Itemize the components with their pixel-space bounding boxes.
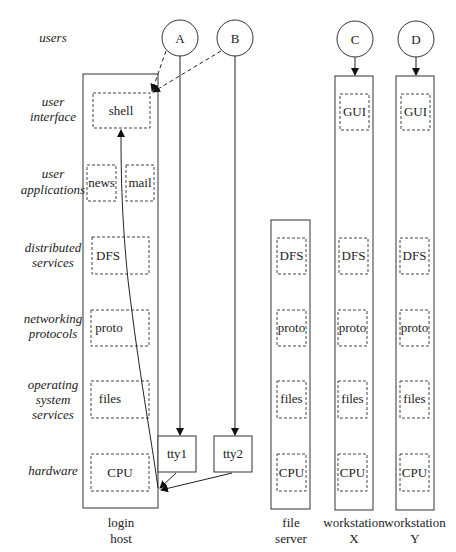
svg-text:D: D [411, 32, 420, 47]
svg-text:proto: proto [95, 320, 122, 335]
file-server: DFS proto files CPU [271, 220, 310, 509]
svg-text:GUI: GUI [404, 104, 427, 119]
svg-text:DFS: DFS [342, 248, 366, 263]
login-host-caption-1: login [108, 515, 135, 530]
workstation-y: GUI DFS proto files CPU [396, 76, 434, 510]
workstation-y-caption-1: workstation [384, 515, 446, 530]
svg-text:DFS: DFS [403, 248, 427, 263]
user-c: C [337, 21, 373, 57]
svg-text:mail: mail [128, 175, 151, 190]
svg-text:tty2: tty2 [223, 446, 243, 461]
svg-text:shell: shell [109, 103, 134, 118]
tty2-to-login-host-arrow [161, 473, 232, 490]
svg-text:files: files [403, 391, 425, 406]
tty1-to-login-host-arrow [160, 473, 176, 488]
svg-text:news: news [88, 175, 115, 190]
svg-text:DFS: DFS [280, 248, 304, 263]
workstation-y-caption-2: Y [410, 531, 420, 546]
svg-text:CPU: CPU [279, 465, 305, 480]
svg-text:CPU: CPU [107, 465, 133, 480]
layer-distributed-services-2: services [32, 255, 74, 270]
connections [121, 51, 416, 490]
login-host: shell news mail DFS proto files CPU [83, 74, 158, 508]
svg-text:files: files [341, 391, 363, 406]
layer-labels: users user interface user applications d… [21, 30, 85, 478]
svg-text:proto: proto [339, 320, 366, 335]
svg-text:files: files [99, 391, 121, 406]
distributed-system-diagram: users user interface user applications d… [0, 0, 456, 552]
layer-networking-protocols-1: networking [24, 311, 83, 326]
svg-text:C: C [351, 32, 360, 47]
layer-user-interface-1: user [42, 94, 65, 109]
svg-text:proto: proto [278, 320, 305, 335]
file-server-caption-2: server [275, 531, 307, 546]
layer-os-services-1: operating [28, 377, 79, 392]
layer-os-services-2: system [36, 392, 71, 407]
tty2-terminal: tty2 [214, 436, 252, 472]
layer-user-interface-2: interface [30, 109, 76, 124]
svg-text:B: B [231, 31, 240, 46]
b-to-shell-dashed-arrow [153, 51, 221, 92]
svg-text:A: A [175, 31, 185, 46]
layer-hardware: hardware [28, 463, 78, 478]
workstation-x: GUI DFS proto files CPU [335, 76, 373, 510]
user-d: D [398, 21, 434, 57]
svg-text:GUI: GUI [343, 104, 366, 119]
svg-text:CPU: CPU [340, 465, 366, 480]
svg-text:DFS: DFS [96, 248, 120, 263]
layer-users: users [39, 30, 66, 45]
layer-user-applications-1: user [42, 166, 65, 181]
login-host-caption-2: host [110, 531, 132, 546]
layer-user-applications-2: applications [21, 182, 85, 197]
svg-text:files: files [280, 391, 302, 406]
tty1-terminal: tty1 [158, 436, 196, 472]
svg-text:tty1: tty1 [167, 446, 187, 461]
layer-distributed-services-1: distributed [25, 240, 82, 255]
user-b: B [217, 20, 253, 56]
workstation-x-caption-2: X [349, 531, 359, 546]
layer-os-services-3: services [32, 407, 74, 422]
workstation-x-caption-1: workstation [323, 515, 385, 530]
layer-networking-protocols-2: protocols [28, 326, 78, 341]
svg-text:proto: proto [401, 320, 428, 335]
file-server-caption-1: file [282, 515, 300, 530]
svg-text:CPU: CPU [402, 465, 428, 480]
user-a: A [162, 20, 198, 56]
